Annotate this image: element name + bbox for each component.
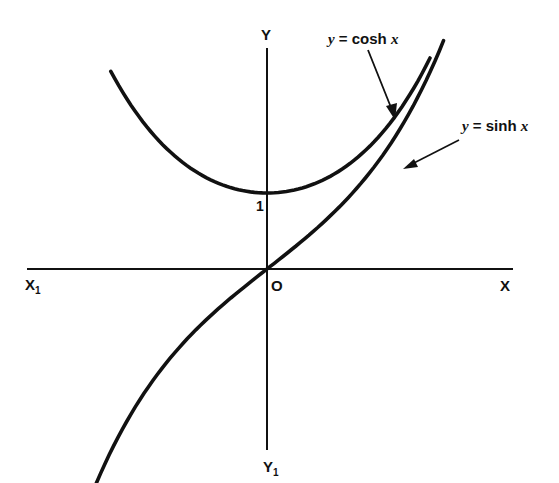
y-tick-one-label: 1 [256, 198, 264, 214]
hyperbolic-functions-plot: Y Y1 X X1 O 1 y = cosh x y = sinh x [0, 0, 559, 483]
x-axis-label: X [500, 277, 510, 294]
x-axis-negative-label: X1 [25, 276, 41, 296]
cosh-annotation-arrow [368, 50, 397, 120]
y-axis-label: Y [261, 26, 271, 43]
sinh-equation-label: y = sinh x [460, 117, 529, 134]
y-axis-negative-label: Y1 [263, 458, 279, 478]
cosh-equation-label: y = cosh x [326, 30, 399, 47]
cosh-curve [111, 58, 430, 193]
sinh-annotation-arrow [403, 140, 459, 169]
origin-label: O [271, 277, 283, 294]
